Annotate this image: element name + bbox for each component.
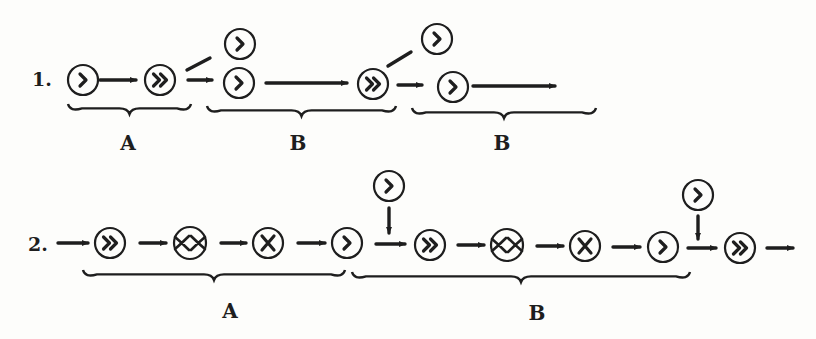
curly-brace xyxy=(207,106,396,116)
node-double-chevron xyxy=(415,230,445,260)
segment-label-b: B xyxy=(290,131,307,155)
node-single-chevron xyxy=(225,29,255,59)
segment-label-b: B xyxy=(529,301,546,325)
node-single-chevron xyxy=(648,232,678,262)
node-single-chevron xyxy=(332,228,362,258)
curly-brace xyxy=(412,108,596,118)
node-single-chevron xyxy=(438,72,468,102)
node-double-cross xyxy=(174,227,206,259)
segment-label-a: A xyxy=(119,131,136,155)
sequence-diagram: 1.ABB 2.AB xyxy=(0,0,816,339)
node-single-chevron xyxy=(683,180,713,210)
branch-edge xyxy=(388,52,411,66)
node-single-chevron xyxy=(374,171,404,201)
node-double-chevron xyxy=(358,69,388,99)
node-single-chevron xyxy=(224,68,254,98)
segment-label-a: A xyxy=(221,299,238,323)
node-cross xyxy=(253,228,283,258)
curly-brace xyxy=(352,272,690,282)
node-double-chevron xyxy=(725,233,755,263)
row-1: 1.ABB xyxy=(32,24,596,155)
node-single-chevron xyxy=(68,65,98,95)
row-number-label: 2. xyxy=(28,233,48,255)
node-double-chevron xyxy=(145,65,175,95)
curly-brace xyxy=(68,104,191,114)
branch-edge xyxy=(187,58,210,70)
curly-brace xyxy=(83,270,345,280)
node-double-cross xyxy=(491,229,523,261)
node-cross xyxy=(570,231,600,261)
row-2: 2.AB xyxy=(28,171,793,325)
row-number-label: 1. xyxy=(32,68,52,90)
segment-label-b: B xyxy=(494,131,511,155)
node-double-chevron xyxy=(95,228,125,258)
node-single-chevron xyxy=(422,24,452,54)
